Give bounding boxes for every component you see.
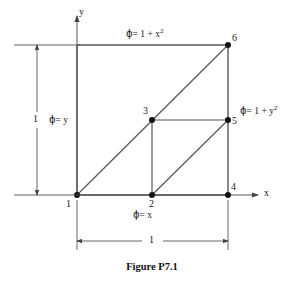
node-marker-3 [149, 117, 155, 123]
bc-eq-bottom: = x [140, 210, 152, 220]
bc-exp-right: 2 [274, 104, 278, 112]
dimension-label-horizontal: 1 [149, 235, 154, 245]
bc-label-left: ϕ= y [49, 115, 68, 126]
node-marker-6 [225, 42, 231, 48]
dimension-label-vertical: 1 [33, 114, 38, 124]
node-label-4: 4 [231, 182, 236, 192]
phi-symbol-right: ϕ [240, 105, 247, 116]
phi-symbol-left: ϕ [49, 114, 56, 125]
phi-symbol-top: ϕ [126, 28, 133, 39]
vertical-dimension [14, 45, 80, 195]
node-label-3: 3 [143, 106, 148, 116]
node-label-5: 5 [232, 116, 237, 126]
bc-label-right: ϕ= 1 + y2 [240, 105, 277, 117]
bc-label-top: ϕ= 1 + x2 [126, 28, 163, 40]
bc-exp-top: 2 [160, 27, 164, 35]
node-label-6: 6 [232, 33, 237, 43]
figure-caption: Figure P7.1 [0, 261, 304, 272]
bc-eq-top: = 1 + x [133, 29, 160, 39]
bc-eq-right: = 1 + y [247, 106, 274, 116]
figure-container: y x 1 2 3 4 5 6 ϕ= 1 + x2 ϕ= 1 + y2 ϕ= y… [0, 0, 304, 281]
node-marker-5 [225, 117, 231, 123]
phi-symbol-bottom: ϕ [133, 209, 140, 220]
edge-2-5-diagonal [152, 120, 228, 195]
bc-label-bottom: ϕ= x [133, 210, 152, 221]
node-marker-4 [225, 192, 231, 198]
node-label-1: 1 [66, 199, 71, 209]
x-axis-label: x [264, 188, 269, 198]
node-label-2: 2 [149, 199, 154, 209]
bc-eq-left: = y [56, 115, 68, 125]
y-axis-label: y [79, 7, 84, 17]
